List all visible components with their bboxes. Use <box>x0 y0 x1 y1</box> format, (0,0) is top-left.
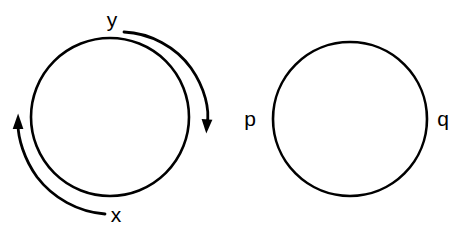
label-q: q <box>437 107 449 130</box>
canvas-background <box>0 0 467 243</box>
circles-diagram: y x p q <box>0 0 467 243</box>
label-p: p <box>244 107 256 130</box>
label-y: y <box>107 8 118 31</box>
label-x: x <box>111 203 122 226</box>
